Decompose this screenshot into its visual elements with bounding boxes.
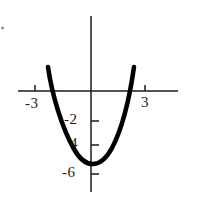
y-axis-label-neg6: -6 [62, 165, 76, 180]
x-axis-label-neg3: -3 [25, 96, 39, 111]
ink-speck [1, 26, 4, 29]
y-axis-label-neg4: 4 [70, 136, 78, 151]
x-axis-label-pos3: 3 [141, 95, 149, 110]
y-axis-label-neg2: -2 [64, 112, 78, 127]
parabola-figure: -3 3 -2 4 -6 [0, 0, 198, 215]
